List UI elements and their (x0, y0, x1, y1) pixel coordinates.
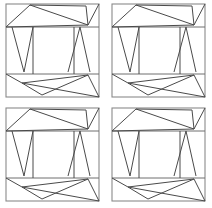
panel-top-right[interactable] (106, 0, 212, 104)
triangulation-drawing-3 (0, 104, 106, 208)
figure-grid (0, 0, 212, 208)
panel-bottom-left[interactable] (0, 104, 106, 208)
triangulation-drawing-1 (0, 0, 106, 104)
panel-bottom-right[interactable] (106, 104, 212, 208)
panel-top-left[interactable] (0, 0, 106, 104)
triangulation-drawing-2 (106, 0, 212, 104)
triangulation-drawing-4 (106, 104, 212, 208)
